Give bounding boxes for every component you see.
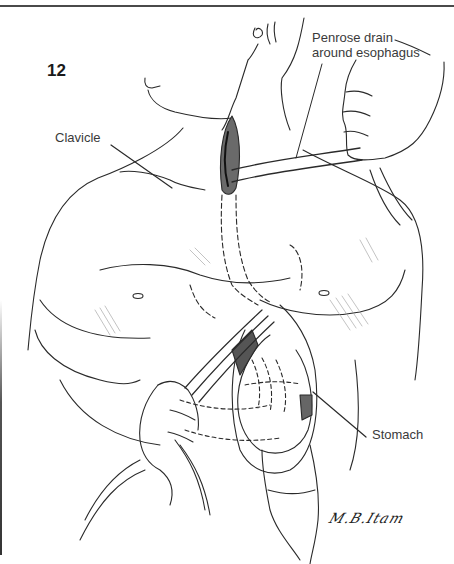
stomach-label: Stomach [372,427,423,442]
tubes [185,310,274,402]
neck-and-chin [145,18,304,130]
abdominal-opening [232,305,317,473]
figure-number: 12 [47,61,66,81]
penrose-drain-label: Penrose drain around esophagus [312,30,432,60]
esophagus-path [190,195,302,318]
clavicle-label: Clavicle [55,130,101,145]
lower-right-hand [262,445,319,564]
figure-page: 12 Penrose drain around esophagus Clavic… [0,0,454,564]
nipples [133,291,329,299]
upper-hand [343,40,445,225]
lower-hand [85,381,210,520]
surgical-illustration [0,0,454,564]
artist-signature: M.B.Itam [327,510,407,526]
shading [95,238,378,335]
penrose-drain [232,64,362,182]
